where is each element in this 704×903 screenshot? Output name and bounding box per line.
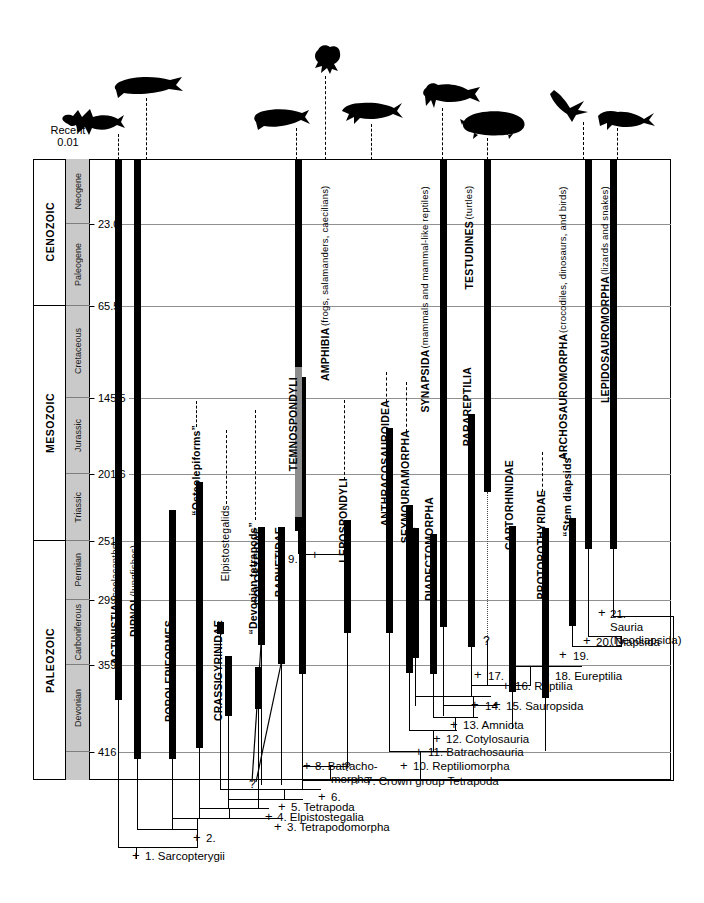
period-permian: Permian [66,541,90,600]
stem-mesosauridae [415,658,416,706]
taxon-label-anthracosauroidea: ANTHRACOSAUROIDEA [380,400,391,526]
node-label-18: 18. Eureptilia [555,670,622,683]
taxon-name: ANTHRACOSAUROIDEA [379,400,391,526]
boundary-label-145: 145.5 [95,392,129,404]
era-cenozoic: CENOZOIC [33,159,66,306]
node-label-2: 2. [206,832,216,845]
taxon-label-lepospondyli: LEPOSPONDYLI [338,478,349,563]
frog-silhouette [310,44,344,76]
boundary-label-416: 416 [95,746,119,758]
taxon-name: ACTINISTIA [109,604,121,665]
label-connector-protorothyridae [542,452,543,492]
recent-value: 0.01 [36,136,100,148]
range-bar-dipnoi [134,159,141,759]
period-label: Cretaceous [73,328,83,374]
era-label: PALEOZOIC [44,628,56,693]
era-label: CENOZOIC [44,202,56,261]
period-label: Permian [73,553,83,587]
leader-line-synapsida [442,108,443,160]
taxon-label-porolepiformes: POROLEPIFORMES [164,620,175,722]
uncertainty-dotted-line-testudines [487,492,488,640]
node-mark-4: + [265,810,273,823]
node-mark-13: + [450,718,458,731]
node-label-8-line2: morpha [331,773,370,786]
taxon-name: PROTOROTHYRIDAE [535,490,547,600]
node-mark-17: + [474,668,482,681]
leader-line-frog [325,76,326,160]
taxon-label-stem-diapsids: “Stem diapsids” [562,452,573,537]
chart-plot-area [33,159,671,780]
node-mark-11: + [415,745,423,758]
node-label-21-line2: Sauria [610,621,643,634]
clade-line-14-h [415,696,491,697]
taxon-label-temnospondyli: TEMNOSPONDYLI [288,377,299,471]
range-bar-synapsida [440,159,447,627]
range-bar-lepidosauromorpha [610,159,617,549]
taxon-common-name: (lungfishes) [128,545,139,597]
node-mark-21: + [598,606,606,619]
taxon-label-captorhinidae: CAPTORHINIDAE [504,460,515,550]
taxon-name: LEPOSPONDYLI [337,478,349,563]
node-label-6: 6. [331,791,341,804]
gridline-65 [90,306,671,307]
period-cretaceous: Cretaceous [66,306,90,398]
taxon-label-testudines: TESTUDINES (turtles) [464,186,475,290]
gridline-416 [90,752,671,753]
clade-line-3-h [172,818,279,819]
taxon-name: “Osteolepiforms” [190,425,202,516]
node-label-17: 17. [488,670,504,683]
label-connector-anthracosauroidea [386,372,387,402]
taxon-label-osteolepiforms: “Osteolepiforms” [191,425,202,516]
taxon-label-mesosauridae: MESOSAURIDAE [406,527,417,615]
taxon-label-diadectomorpha: DIADECTOMORPHA [424,497,435,601]
gridline-145 [90,398,671,399]
node-label-12: 12. Cotylosauria [446,733,529,746]
taxon-common-name: (crocodiles, dinosaurs, and birds) [558,186,569,333]
period-column: Neogene Paleogene Cretaceous Jurassic Tr… [66,159,90,780]
taxon-common-name: (turtles) [464,186,475,220]
taxon-label-amphibia: AMPHIBIA (frogs, salamanders, caecilians… [320,186,331,381]
taxon-name: COLOSTEIDAE [252,527,264,605]
range-bar-testudines [484,159,491,492]
taxon-common-name: (lizards and snakes) [600,186,611,275]
taxon-name: DIPNOI [128,600,140,637]
stem-stem-diapsids [572,626,573,646]
period-triassic: Triassic [66,474,90,541]
taxon-label-protorothyridae: PROTOROTHYRIDAE [536,490,547,600]
node-label-19: 19. [573,650,589,663]
clade-line-15-h [471,696,474,697]
stem-lepidosauromorpha [613,549,614,601]
period-label: Carboniferous [73,604,83,661]
period-label: Neogene [73,173,83,210]
phylogeny-chart-figure: Recent 0.01 CENOZOIC MESOZOIC PALEOZOIC … [0,0,704,903]
node-mark-10: + [400,759,408,772]
node-mark-15: + [493,698,501,711]
clade-line-20-v [588,601,589,637]
leader-line-testudines [487,138,488,160]
period-label: Paleogene [73,243,83,286]
lungfish-silhouette [112,74,184,100]
node-label-13: 13. Amniota [463,719,524,732]
taxon-name: DIADECTOMORPHA [423,497,435,601]
lizard-silhouette [340,93,404,127]
taxon-label-parareptilia: PARAREPTILIA [462,367,473,446]
clade-line-dipnoi-v [137,829,138,830]
period-neogene: Neogene [66,159,90,224]
period-paleogene: Paleogene [66,224,90,306]
taxon-name: Elpistostegalids [219,505,231,581]
label-connector-lepospondyli [344,400,345,480]
range-bar-parareptilia [468,414,475,647]
small-lizard-silhouette [596,104,656,132]
recent-text: Recent [36,124,100,136]
clade-line-2-h [137,829,198,830]
period-label: Triassic [73,492,83,523]
stem-seymouriamorpha [409,673,410,730]
node-mark-19: + [559,648,567,661]
taxon-name: MESOSAURIDAE [405,527,417,615]
bird-silhouette [548,88,590,124]
taxon-name: ARCHOSAUROMORPHA [558,334,569,460]
stem-lepospondyli [347,633,348,766]
leader-line-lepidosauromorpha [617,128,618,160]
range-bar-amphibia-recent [295,159,302,367]
period-label: Devonian [73,689,83,727]
